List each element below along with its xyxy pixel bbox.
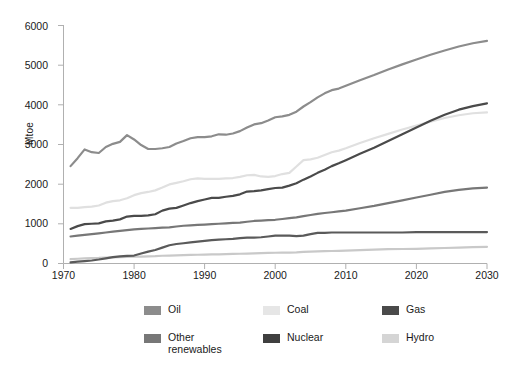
legend-label-other-renewables: Other renewables — [168, 332, 222, 355]
legend-swatch-gas — [382, 306, 399, 315]
legend-item-coal[interactable]: Coal — [263, 304, 309, 316]
x-tick-label: 2000 — [253, 269, 297, 281]
legend-label-gas: Gas — [406, 304, 425, 316]
x-tick-label: 2010 — [324, 269, 368, 281]
legend-label-oil: Oil — [168, 304, 181, 316]
chart-legend: Oil Coal Gas Other renewables Nuclear Hy… — [0, 297, 511, 359]
energy-demand-line-chart: Mtoe 6000 5000 4000 3000 2000 1000 0 — [0, 0, 511, 372]
legend-item-hydro[interactable]: Hydro — [382, 332, 434, 344]
legend-label-coal: Coal — [287, 304, 309, 316]
x-tick-label: 2030 — [465, 269, 509, 281]
series-line-oil — [71, 41, 487, 166]
series-line-coal — [71, 112, 487, 207]
legend-swatch-oil — [144, 306, 161, 315]
legend-item-nuclear[interactable]: Nuclear — [263, 332, 323, 344]
plot-svg — [0, 0, 511, 295]
legend-label-hydro: Hydro — [406, 332, 434, 344]
legend-swatch-nuclear — [263, 334, 280, 343]
legend-swatch-other-renewables — [144, 334, 161, 343]
caption-strip — [0, 358, 511, 372]
x-tick-label: 1980 — [112, 269, 156, 281]
data-series — [71, 41, 487, 262]
legend-item-oil[interactable]: Oil — [144, 304, 181, 316]
legend-swatch-hydro — [382, 334, 399, 343]
legend-swatch-coal — [263, 306, 280, 315]
x-tick-label: 1970 — [42, 269, 86, 281]
x-tick-label: 2020 — [394, 269, 438, 281]
legend-item-other-renewables[interactable]: Other renewables — [144, 332, 222, 355]
x-tick-label: 1990 — [183, 269, 227, 281]
series-line-hydro — [71, 247, 487, 259]
plot-area: Mtoe 6000 5000 4000 3000 2000 1000 0 — [0, 0, 511, 295]
legend-label-nuclear: Nuclear — [287, 332, 323, 344]
legend-item-gas[interactable]: Gas — [382, 304, 425, 316]
